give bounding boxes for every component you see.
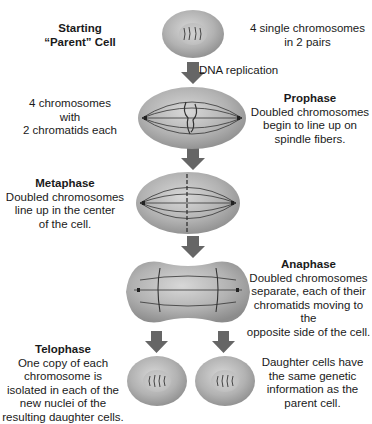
daughter-cells-note: Daughter cells have the same genetic inf…: [255, 356, 370, 410]
parent-cell-label: Starting “Parent” Cell: [30, 22, 130, 49]
prophase-left-note: 4 chromosomes with 2 chromatids each: [15, 97, 125, 138]
daughter-cell-left: [127, 356, 187, 406]
parent-cell-note: 4 single chromosomes in 2 pairs: [245, 22, 370, 49]
metaphase-label: Metaphase Doubled chromosomes line up in…: [5, 177, 125, 231]
anaphase-cell: [126, 262, 250, 323]
daughter-cell-right: [195, 356, 255, 406]
telophase-label: Telophase One copy of each chromosome is…: [2, 343, 124, 424]
dna-replication-label: DNA replication: [199, 64, 309, 78]
prophase-label: Prophase Doubled chromosomes begin to li…: [250, 92, 370, 146]
prophase-cell: [138, 87, 246, 149]
parent-cell: [162, 10, 224, 58]
metaphase-cell: [136, 172, 240, 234]
anaphase-label: Anaphase Doubled chromosomes separate, e…: [245, 258, 372, 339]
